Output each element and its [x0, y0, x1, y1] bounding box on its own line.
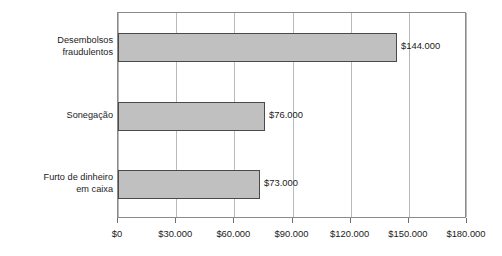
value-label-2: $73.000	[264, 178, 298, 188]
value-axis-labels: $0 $30.000 $60.000 $90.000 $120.000 $150…	[0, 228, 502, 246]
xtick-6	[466, 218, 467, 223]
xtick-0	[117, 218, 118, 223]
xtick-label-6: $180.000	[446, 228, 485, 239]
xtick-label-0: $0	[112, 228, 122, 239]
category-label-0: Desembolsos fraudulentos	[0, 35, 113, 58]
category-label-1: Sonegação	[0, 110, 113, 122]
xtick-1	[175, 218, 176, 223]
xtick-label-3: $90.000	[275, 228, 309, 239]
xtick-label-2: $60.000	[216, 228, 250, 239]
bar-2	[118, 170, 260, 199]
xtick-2	[233, 218, 234, 223]
category-label-2: Furto de dinheiro em caixa	[0, 172, 113, 195]
xtick-label-5: $150.000	[388, 228, 427, 239]
xtick-label-1: $30.000	[158, 228, 192, 239]
xtick-3	[292, 218, 293, 223]
xtick-4	[350, 218, 351, 223]
xtick-label-4: $120.000	[330, 228, 369, 239]
bar-1	[118, 102, 265, 131]
category-axis-labels: Desembolsos fraudulentos Sonegação Furto…	[0, 12, 113, 218]
gridline-6	[466, 13, 467, 217]
xtick-5	[408, 218, 409, 223]
bar-0	[118, 33, 397, 62]
value-label-0: $144.000	[401, 41, 440, 51]
value-label-1: $76.000	[269, 110, 303, 120]
bar-chart: Desembolsos fraudulentos Sonegação Furto…	[0, 0, 502, 256]
